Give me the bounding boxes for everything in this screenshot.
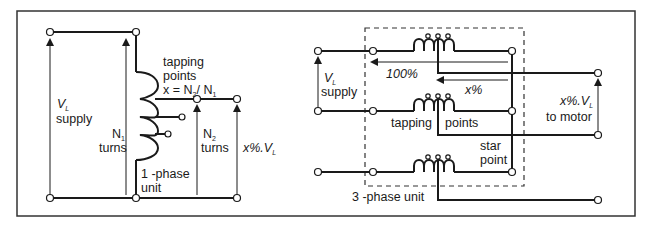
three-phase-unit: VL supply 100% x% tapping points star po… bbox=[315, 28, 602, 204]
winding-2 bbox=[414, 99, 454, 111]
single-phase-unit: VL supply N1 turns tapping points x = N2… bbox=[47, 29, 277, 202]
points-label: points bbox=[163, 69, 196, 83]
n2-turns-label: turns bbox=[201, 141, 229, 155]
terminal bbox=[47, 195, 54, 202]
output-voltage-label: x%.VL bbox=[242, 141, 276, 156]
label-100-percent: 100% bbox=[386, 67, 418, 81]
point-label: point bbox=[480, 153, 508, 167]
terminal bbox=[179, 114, 185, 120]
to-motor-label: to motor bbox=[546, 110, 592, 124]
terminal bbox=[47, 29, 54, 36]
tap-output-3 bbox=[438, 159, 598, 200]
n1-label: N1 bbox=[112, 127, 125, 142]
star-label: star bbox=[480, 139, 501, 153]
winding-3 bbox=[414, 160, 454, 172]
terminal bbox=[133, 195, 140, 202]
label-x-percent: x% bbox=[464, 83, 482, 97]
n2-label: N2 bbox=[203, 127, 216, 142]
terminal bbox=[133, 29, 140, 36]
vl-label-3ph: VL bbox=[324, 71, 336, 86]
three-phase-unit-label: 3 -phase unit bbox=[352, 190, 425, 204]
points-label-3ph: points bbox=[445, 116, 478, 130]
terminal bbox=[165, 131, 171, 137]
tapping-label: tapping bbox=[163, 55, 204, 69]
winding-1 bbox=[414, 39, 454, 51]
figure-frame bbox=[17, 11, 635, 216]
vl-label: VL bbox=[57, 97, 69, 112]
ratio-formula: x = N2/ N1 bbox=[163, 83, 216, 98]
autotransformer-starter-diagram: VL supply N1 turns tapping points x = N2… bbox=[0, 0, 650, 225]
unit-label-line2: unit bbox=[141, 181, 162, 195]
supply-label: supply bbox=[56, 112, 93, 126]
output-voltage-label-3ph: x%.VL bbox=[559, 94, 593, 109]
n1-turns-label: turns bbox=[99, 141, 127, 155]
supply-label-3ph: supply bbox=[321, 85, 358, 99]
terminal bbox=[234, 96, 241, 103]
unit-label-line1: 1 -phase bbox=[141, 167, 190, 181]
terminal bbox=[234, 195, 241, 202]
tap-output-1 bbox=[438, 38, 598, 73]
tapping-label-3ph: tapping bbox=[391, 116, 432, 130]
